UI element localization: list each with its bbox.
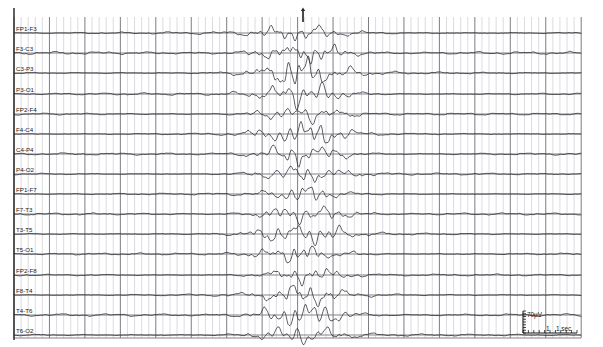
channel-label-t4-t6: T4-T6	[16, 307, 33, 314]
channel-label-f7-t3: F7-T3	[16, 206, 33, 213]
calibration-time-label: 1 sec	[556, 325, 572, 332]
calibration-time-count: 1	[546, 325, 550, 332]
channel-label-t5-o1: T5-O1	[16, 246, 34, 253]
channel-label-p3-o1: P3-O1	[16, 86, 34, 93]
channel-label-fp2-f4: FP2-F4	[16, 106, 37, 113]
channel-label-t6-o2: T6-O2	[16, 327, 34, 334]
calibration-amplitude-label: 70µV	[527, 311, 543, 319]
channel-label-p4-o2: P4-O2	[16, 166, 34, 173]
channel-label-f4-c4: F4-C4	[16, 126, 34, 133]
channel-label-fp1-f7: FP1-F7	[16, 186, 37, 193]
channel-label-t3-t5: T3-T5	[16, 226, 33, 233]
channel-label-fp1-f3: FP1-F3	[16, 25, 37, 32]
eeg-chart: FP1-F3F3-C3C3-P3P3-O1FP2-F4F4-C4C4-P4P4-…	[0, 0, 603, 347]
channel-label-fp2-f8: FP2-F8	[16, 267, 37, 274]
channel-label-f3-c3: F3-C3	[16, 45, 34, 52]
eeg-viewer: FP1-F3F3-C3C3-P3P3-O1FP2-F4F4-C4C4-P4P4-…	[0, 0, 603, 347]
channel-label-c3-p3: C3-P3	[16, 65, 34, 72]
channel-label-f8-t4: F8-T4	[16, 287, 33, 294]
channel-label-c4-p4: C4-P4	[16, 146, 34, 153]
